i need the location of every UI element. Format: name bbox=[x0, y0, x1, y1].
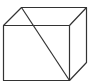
cube-diagonal bbox=[22, 8, 70, 81]
cube-right-face bbox=[70, 8, 87, 81]
cube-top-face bbox=[4, 8, 87, 26]
cube-front-face bbox=[4, 26, 70, 81]
cube-diagram bbox=[0, 0, 89, 83]
